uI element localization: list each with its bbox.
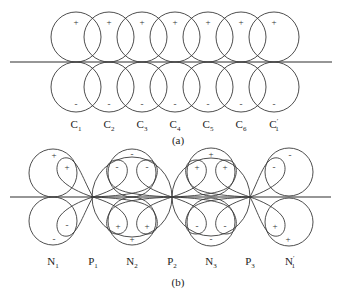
loop-n1p-lower [250, 197, 285, 236]
sign: - [289, 150, 292, 160]
caption-b: (b) [172, 276, 185, 289]
loop-n1p-upper [250, 158, 285, 197]
sign: + [194, 162, 199, 172]
label-n1-prime: N′1 [285, 254, 295, 270]
panel-b: + + - - - - - + + + + + + - - - - - + + … [10, 148, 331, 289]
sign-minus: - [108, 99, 111, 109]
sign-minus: - [174, 99, 177, 109]
sign-plus: + [106, 17, 111, 27]
label-n3: N3 [205, 255, 217, 270]
sign-plus: + [73, 17, 78, 27]
labels-b: N1 P1 N2 P2 N3 P3 N′1 [47, 254, 295, 270]
sign-plus: + [271, 17, 276, 27]
label-c4: C4 [170, 118, 181, 133]
sign: + [272, 221, 277, 231]
label-c2: C2 [104, 118, 115, 133]
sign-plus: + [205, 17, 210, 27]
signs-a: + + + + + + + - - - - - - - [73, 17, 276, 109]
sign: + [208, 149, 213, 159]
label-c3: C3 [137, 118, 148, 133]
sign: - [131, 149, 134, 159]
sign: + [64, 162, 69, 172]
sign: - [196, 221, 199, 231]
loop-n1-lower [57, 197, 93, 236]
sign-minus: - [207, 99, 210, 109]
loop-n3-lower-right [172, 197, 250, 234]
loop-n2-lower-right [93, 197, 172, 234]
sign-minus: - [240, 99, 243, 109]
sign: - [273, 162, 276, 172]
sign: - [53, 234, 56, 244]
sign: - [224, 221, 227, 231]
sign: + [129, 234, 134, 244]
sign-plus: + [238, 17, 243, 27]
label-p2: P2 [167, 255, 177, 270]
label-p1: P1 [88, 255, 98, 270]
loop-n1-upper [57, 158, 93, 197]
sign: - [146, 162, 149, 172]
labels-a: C1 C2 C3 C4 C5 C6 C′1 [71, 117, 280, 133]
orbital-diagram: + + + + + + + - - - - - - - C1 C2 C3 C4 … [0, 0, 339, 296]
sign: + [285, 234, 290, 244]
label-n1: N1 [47, 255, 59, 270]
label-c6: C6 [236, 118, 247, 133]
label-n2: N2 [126, 255, 138, 270]
sign: - [116, 162, 119, 172]
label-c1: C1 [71, 118, 82, 133]
loop-n3-upper-left [172, 160, 250, 197]
label-p3: P3 [245, 255, 255, 270]
sign: - [210, 234, 213, 244]
loop-n2-lower-left [93, 197, 172, 234]
sign-minus: - [75, 99, 78, 109]
sign: + [222, 162, 227, 172]
label-c5: C5 [203, 118, 214, 133]
sign: - [66, 220, 69, 230]
sign: + [115, 221, 120, 231]
sign-plus: + [172, 17, 177, 27]
caption-a: (a) [172, 134, 185, 147]
panel-a: + + + + + + + - - - - - - - C1 C2 C3 C4 … [10, 12, 332, 147]
sign-minus: - [141, 99, 144, 109]
sign-minus: - [273, 99, 276, 109]
loop-n3-upper-right [172, 160, 250, 197]
label-c1-prime: C′1 [269, 117, 279, 133]
loop-n2-upper-right [93, 160, 172, 197]
loop-n2-upper-left [93, 160, 172, 197]
sign: + [144, 221, 149, 231]
loop-n3-lower-left [172, 197, 250, 234]
sign: + [51, 150, 56, 160]
sign-plus: + [139, 17, 144, 27]
